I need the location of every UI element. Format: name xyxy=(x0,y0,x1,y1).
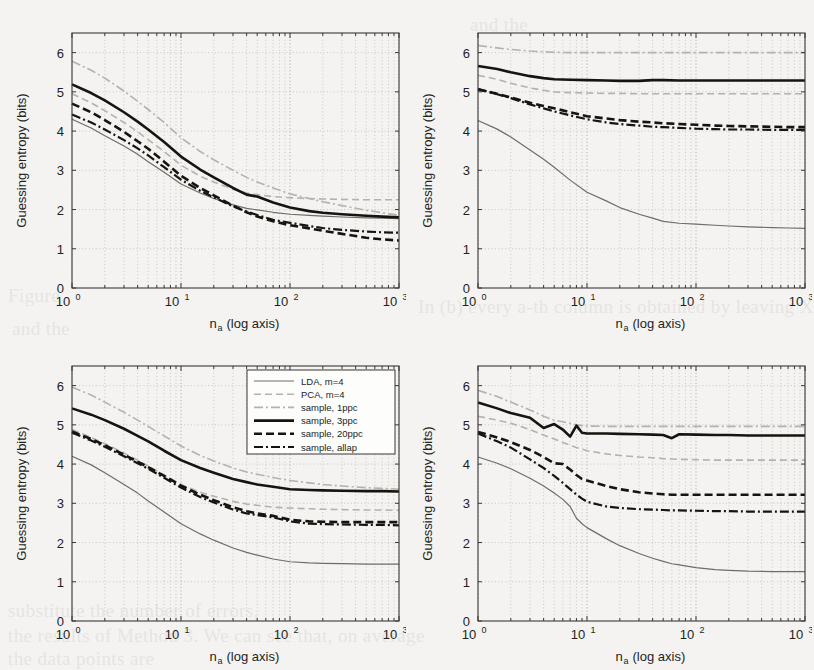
x-tick-label: 10 xyxy=(56,294,70,309)
x-tick-label: 10 xyxy=(571,294,585,309)
x-tick-exponent: 3 xyxy=(808,625,812,635)
line-chart-bottom-left: 0123456100101102103na(log axis)Guessing … xyxy=(0,333,406,666)
series-line xyxy=(478,75,805,93)
chart-panel-top-left: 0123456100101102103na(log axis)Guessing … xyxy=(0,0,406,333)
series-line xyxy=(478,390,805,426)
x-axis-title-subscript: a xyxy=(624,656,629,666)
y-tick-label: 2 xyxy=(463,536,470,551)
line-chart-top-left: 0123456100101102103na(log axis)Guessing … xyxy=(0,0,406,333)
y-tick-label: 6 xyxy=(463,46,470,61)
x-tick-label: 10 xyxy=(680,627,694,642)
x-axis-title-tail: (log axis) xyxy=(633,649,686,664)
series-group xyxy=(478,46,805,229)
y-tick-label: 1 xyxy=(463,242,470,257)
y-axis-title: Guessing entropy (bits) xyxy=(14,426,29,560)
y-axis-title: Guessing entropy (bits) xyxy=(420,93,435,227)
y-tick-label: 2 xyxy=(57,536,64,551)
series-line xyxy=(478,120,805,228)
x-axis-title: n xyxy=(616,316,623,331)
y-tick-label: 5 xyxy=(463,418,470,433)
x-tick-exponent: 2 xyxy=(293,625,298,635)
tick-marks xyxy=(478,33,805,288)
chart-panel-top-right: 0123456100101102103na(log axis)Guessing … xyxy=(406,0,812,333)
legend-label: sample, 1ppc xyxy=(301,402,358,413)
x-tick-exponent: 3 xyxy=(808,292,812,302)
series-line xyxy=(72,456,399,564)
x-axis-title-subscript: a xyxy=(218,323,223,333)
x-tick-exponent: 0 xyxy=(481,625,486,635)
tick-marks xyxy=(72,33,399,288)
series-line xyxy=(478,89,805,130)
series-line xyxy=(478,402,805,438)
series-group xyxy=(72,61,399,240)
y-tick-label: 4 xyxy=(57,457,64,472)
x-tick-label: 10 xyxy=(165,627,179,642)
y-tick-label: 3 xyxy=(57,496,64,511)
legend-label: sample, 20ppc xyxy=(301,428,363,439)
y-tick-label: 6 xyxy=(57,46,64,61)
x-tick-label: 10 xyxy=(789,294,803,309)
series-line xyxy=(478,433,805,511)
x-tick-exponent: 0 xyxy=(75,292,80,302)
y-tick-label: 4 xyxy=(463,124,470,139)
y-tick-label: 3 xyxy=(57,163,64,178)
series-line xyxy=(478,457,805,572)
x-tick-label: 10 xyxy=(274,627,288,642)
y-tick-label: 2 xyxy=(463,203,470,218)
x-tick-exponent: 2 xyxy=(699,292,704,302)
y-tick-label: 6 xyxy=(463,379,470,394)
x-axis-title: n xyxy=(616,649,623,664)
series-line xyxy=(72,104,399,241)
chart-legend: LDA, m=4PCA, m=4sample, 1ppcsample, 3ppc… xyxy=(247,370,395,454)
x-axis-title-tail: (log axis) xyxy=(227,649,280,664)
series-line xyxy=(478,46,805,53)
y-tick-label: 1 xyxy=(57,242,64,257)
axis-box xyxy=(72,33,399,288)
y-tick-label: 3 xyxy=(463,496,470,511)
line-chart-top-right: 0123456100101102103na(log axis)Guessing … xyxy=(406,0,812,333)
series-line xyxy=(478,66,805,81)
y-axis-title: Guessing entropy (bits) xyxy=(14,93,29,227)
x-tick-label: 10 xyxy=(165,294,179,309)
x-tick-label: 10 xyxy=(274,294,288,309)
x-axis-title-tail: (log axis) xyxy=(633,316,686,331)
x-tick-label: 10 xyxy=(680,294,694,309)
legend-label: sample, allap xyxy=(301,442,357,453)
x-axis-title: n xyxy=(210,316,217,331)
chart-panel-bottom-left: 0123456100101102103na(log axis)Guessing … xyxy=(0,333,406,666)
x-axis-title: n xyxy=(210,649,217,664)
series-group xyxy=(478,390,805,571)
y-tick-label: 4 xyxy=(57,124,64,139)
x-tick-exponent: 2 xyxy=(699,625,704,635)
gridlines xyxy=(72,33,399,288)
y-axis-title: Guessing entropy (bits) xyxy=(420,426,435,560)
series-line xyxy=(72,84,399,217)
y-tick-label: 6 xyxy=(57,379,64,394)
y-tick-label: 2 xyxy=(57,203,64,218)
axis-box xyxy=(478,33,805,288)
x-axis-title-subscript: a xyxy=(624,323,629,333)
x-axis-title-subscript: a xyxy=(218,656,223,666)
y-tick-label: 1 xyxy=(463,575,470,590)
y-tick-label: 1 xyxy=(57,575,64,590)
x-tick-exponent: 1 xyxy=(184,625,189,635)
x-tick-label: 10 xyxy=(571,627,585,642)
x-tick-label: 10 xyxy=(462,627,476,642)
y-tick-label: 3 xyxy=(463,163,470,178)
x-tick-label: 10 xyxy=(383,627,397,642)
y-tick-label: 4 xyxy=(463,457,470,472)
chart-panel-bottom-right: 0123456100101102103na(log axis)Guessing … xyxy=(406,333,812,666)
x-axis-title-tail: (log axis) xyxy=(227,316,280,331)
y-tick-label: 5 xyxy=(463,85,470,100)
x-tick-label: 10 xyxy=(789,627,803,642)
series-line xyxy=(478,432,805,495)
x-tick-exponent: 2 xyxy=(293,292,298,302)
y-tick-label: 5 xyxy=(57,85,64,100)
x-tick-label: 10 xyxy=(56,627,70,642)
legend-label: PCA, m=4 xyxy=(301,389,345,400)
y-tick-label: 5 xyxy=(57,418,64,433)
series-line xyxy=(72,119,399,218)
x-tick-exponent: 0 xyxy=(75,625,80,635)
x-tick-label: 10 xyxy=(462,294,476,309)
